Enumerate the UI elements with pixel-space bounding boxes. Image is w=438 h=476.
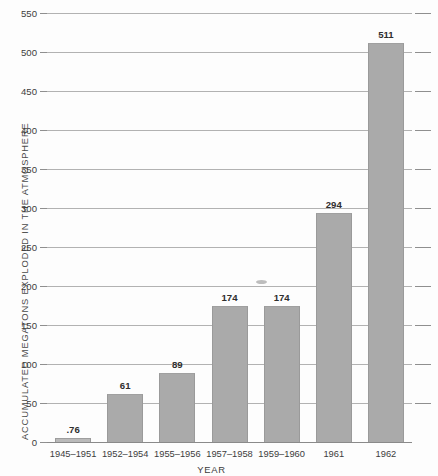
y-axis-tick-mark-right bbox=[415, 403, 431, 404]
y-axis-tick-mark-right bbox=[415, 13, 431, 14]
y-axis-tick-mark-right bbox=[415, 208, 431, 209]
gridline bbox=[47, 52, 412, 53]
y-axis-tick-mark bbox=[40, 169, 47, 170]
y-axis-tick-label: 0 bbox=[32, 437, 37, 448]
y-axis-tick-label: 450 bbox=[21, 86, 37, 97]
y-axis-tick-label: 50 bbox=[26, 398, 37, 409]
y-axis-tick-label: 100 bbox=[21, 359, 37, 370]
x-axis-tick-label: 1957–1958 bbox=[206, 449, 253, 459]
y-axis-tick-mark bbox=[40, 130, 47, 131]
y-axis-tick-mark bbox=[40, 91, 47, 92]
bar-value-label: 511 bbox=[378, 29, 393, 40]
gridline bbox=[47, 208, 412, 209]
y-axis-tick-mark-right bbox=[415, 91, 431, 92]
y-axis-tick-mark bbox=[40, 364, 47, 365]
y-axis-tick-label: 300 bbox=[21, 203, 37, 214]
x-axis-tick-label: 1959–1960 bbox=[258, 449, 305, 459]
y-axis-tick-label: 250 bbox=[21, 242, 37, 253]
y-axis-tick-mark-right bbox=[415, 52, 431, 53]
x-axis-baseline bbox=[47, 442, 412, 443]
bar bbox=[107, 394, 143, 442]
y-axis-tick-mark bbox=[40, 286, 47, 287]
bar bbox=[368, 43, 404, 442]
x-axis-tick-label: 1962 bbox=[376, 449, 397, 459]
y-axis-tick-mark-right bbox=[415, 130, 431, 131]
y-axis-tick-label: 150 bbox=[21, 320, 37, 331]
y-axis-tick-mark bbox=[40, 208, 47, 209]
y-axis-tick-label: 400 bbox=[21, 125, 37, 136]
x-axis-tick-label: 1945–1951 bbox=[50, 449, 97, 459]
scan-smudge-artifact bbox=[256, 280, 267, 284]
gridline bbox=[47, 247, 412, 248]
x-axis-tick-label: 1952–1954 bbox=[102, 449, 149, 459]
bar-chart: ACCUMULATED MEGATONS EXPLODED IN THE ATM… bbox=[0, 0, 438, 476]
y-axis-tick-mark bbox=[40, 13, 47, 14]
bar-value-label: 89 bbox=[172, 359, 183, 370]
y-axis-tick-label: 550 bbox=[21, 8, 37, 19]
bar-value-label: 174 bbox=[221, 292, 237, 303]
x-axis-title: YEAR bbox=[197, 464, 225, 475]
y-axis-tick-mark-right bbox=[415, 169, 431, 170]
bar bbox=[212, 306, 248, 442]
gridline bbox=[47, 286, 412, 287]
bar bbox=[316, 213, 352, 442]
gridline bbox=[47, 13, 412, 14]
y-axis-tick-mark-right bbox=[415, 286, 431, 287]
plot-area: 050100150200250300350400450500550 .76618… bbox=[47, 13, 412, 442]
bar-value-label: .76 bbox=[66, 424, 79, 435]
x-axis-tick-label: 1955–1956 bbox=[154, 449, 201, 459]
gridline bbox=[47, 169, 412, 170]
bar bbox=[55, 438, 91, 442]
y-axis-tick-label: 200 bbox=[21, 281, 37, 292]
bar bbox=[159, 373, 195, 442]
y-axis-tick-mark bbox=[40, 52, 47, 53]
gridline bbox=[47, 130, 412, 131]
bar-value-label: 294 bbox=[326, 199, 342, 210]
bar-value-label: 174 bbox=[274, 292, 290, 303]
bar bbox=[264, 306, 300, 442]
y-axis-tick-mark bbox=[40, 403, 47, 404]
x-axis-tick-label: 1961 bbox=[323, 449, 344, 459]
y-axis-tick-mark-right bbox=[415, 364, 431, 365]
gridline bbox=[47, 91, 412, 92]
y-axis-tick-mark bbox=[40, 442, 47, 443]
y-axis-tick-mark bbox=[40, 325, 47, 326]
y-axis-tick-mark-right bbox=[415, 247, 431, 248]
y-axis-tick-mark bbox=[40, 247, 47, 248]
y-axis-tick-label: 500 bbox=[21, 47, 37, 58]
bar-value-label: 61 bbox=[120, 380, 131, 391]
y-axis-tick-mark-right bbox=[415, 325, 431, 326]
y-axis-tick-label: 350 bbox=[21, 164, 37, 175]
